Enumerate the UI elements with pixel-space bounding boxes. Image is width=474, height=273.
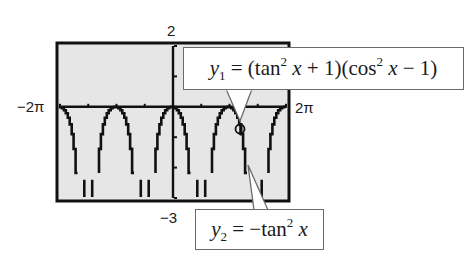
x-max-label: 2π: [295, 100, 314, 115]
x-min-label: −2π: [17, 99, 44, 114]
y-min-label: −3: [160, 210, 177, 225]
y-max-label: 2: [167, 23, 175, 38]
equation-y2: y2 = −tan2 x: [211, 216, 308, 243]
callout-y2: y2 = −tan2 x: [195, 209, 324, 250]
equation-y1: y1 = (tan2 x + 1)(cos2 x − 1): [210, 55, 438, 82]
figure: 2 −3 −2π 2π y1 = (tan2 x + 1)(cos2 x − 1…: [0, 0, 474, 273]
callout-y1: y1 = (tan2 x + 1)(cos2 x − 1): [183, 47, 464, 90]
